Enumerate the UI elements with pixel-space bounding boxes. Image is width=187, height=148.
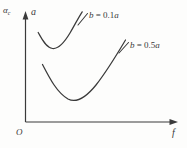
curve-label-b-0-1a-eq: = 0.1 <box>94 10 115 20</box>
y-axis-outer-label: αc <box>3 6 10 16</box>
curve-label-b-0-1a-coef: a <box>114 10 119 20</box>
x-axis-label: f <box>172 128 175 138</box>
x-axis <box>26 119 179 125</box>
y-axis-arrowhead <box>23 11 29 20</box>
figure-container: αc a f O b = 0.1a b = 0.5a <box>0 0 187 148</box>
chart-canvas <box>0 0 187 148</box>
origin-label: O <box>16 128 23 137</box>
curve-label-b-0-5a: b = 0.5a <box>130 41 160 50</box>
y-axis-inner-label: a <box>31 7 36 17</box>
curve-label-b-0-5a-eq: = 0.5 <box>135 40 156 50</box>
y-axis-outer-label-subscript: c <box>8 10 11 16</box>
curve-b-0-5a <box>43 40 126 101</box>
curve-label-b-0-1a: b = 0.1a <box>89 11 119 20</box>
y-axis <box>23 11 29 122</box>
curve-b-0-1a <box>38 12 82 49</box>
curve-label-b-0-5a-coef: a <box>155 40 160 50</box>
x-axis-arrowhead <box>170 119 179 125</box>
